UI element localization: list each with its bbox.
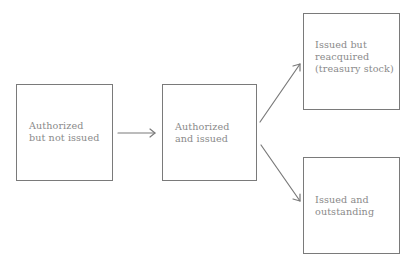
label-line: Authorized [175, 121, 229, 132]
arrow-issued-to-outstanding [261, 145, 300, 201]
label-line: and issued [175, 133, 228, 144]
label-line: reacquired [315, 51, 369, 62]
label-line: Issued and [315, 194, 369, 205]
label-line: (treasury stock) [315, 63, 394, 74]
node-treasury-stock-label: Issued but reacquired (treasury stock) [315, 39, 394, 75]
label-line: Issued but [315, 39, 367, 50]
label-line: outstanding [315, 206, 374, 217]
arrow-issued-to-treasury [260, 64, 300, 122]
arrow-not-issued-to-issued [118, 129, 155, 137]
node-authorized-not-issued-label: Authorized but not issued [29, 120, 99, 144]
label-line: Authorized [29, 120, 83, 131]
label-line: but not issued [29, 132, 99, 143]
node-authorized-and-issued-label: Authorized and issued [175, 121, 229, 145]
node-issued-outstanding-label: Issued and outstanding [315, 194, 374, 218]
